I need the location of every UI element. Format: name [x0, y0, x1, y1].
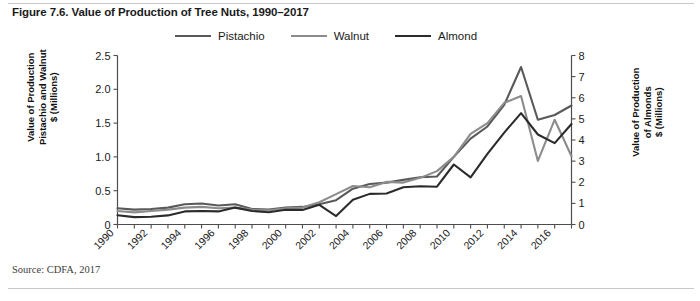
x-axis-tick-label: 1992 [125, 226, 150, 251]
x-axis-tick-label-group: 2016 [528, 226, 553, 251]
source-note: Source: CDFA, 2017 [12, 264, 100, 275]
figure-container: Figure 7.6. Value of Production of Tree … [0, 0, 700, 301]
x-axis-tick-label-group: 1990 [91, 226, 116, 251]
y-axis-left-tick-label: 2.5 [95, 50, 110, 62]
x-axis-tick-label-group: 2008 [394, 226, 419, 251]
x-axis-tick-label-group: 2010 [427, 226, 452, 251]
y-axis-left-tick-label: 2.0 [95, 83, 110, 95]
y-axis-right-tick-label: 0 [579, 219, 585, 231]
x-axis-tick-label-group: 2002 [293, 226, 318, 251]
x-axis-tick-label-group: 1998 [225, 226, 250, 251]
x-axis-tick-label: 2006 [360, 226, 385, 251]
x-axis-tick-label-group: 2000 [259, 226, 284, 251]
x-axis-tick-label: 2012 [461, 226, 486, 251]
x-axis-tick-label-group: 2006 [360, 226, 385, 251]
y-axis-right-tick-label: 4 [579, 134, 585, 146]
y-axis-right-tick-label: 1 [579, 197, 585, 209]
x-axis-tick-label: 2000 [259, 226, 284, 251]
series-line-almond [118, 113, 572, 217]
series-line-pistachio [118, 67, 572, 210]
x-axis-tick-label: 2014 [494, 226, 519, 251]
y-axis-right-tick-label: 6 [579, 92, 585, 104]
chart-svg: 00.51.01.52.02.5012345678199019921994199… [0, 0, 700, 301]
y-axis-left-tick-label: 0.5 [95, 185, 110, 197]
x-axis-tick-label: 1996 [192, 226, 217, 251]
x-axis-tick-label: 2004 [326, 226, 351, 251]
x-axis-tick-label: 1998 [225, 226, 250, 251]
plot-area: 00.51.01.52.02.5012345678199019921994199… [0, 0, 700, 301]
x-axis-tick-label-group: 2012 [461, 226, 486, 251]
x-axis-tick-label: 1990 [91, 226, 116, 251]
y-axis-left-tick-label: 1.0 [95, 151, 110, 163]
x-axis-tick-label-group: 1992 [125, 226, 150, 251]
x-axis-tick-label: 2008 [394, 226, 419, 251]
y-axis-right-tick-label: 7 [579, 71, 585, 83]
x-axis-tick-label: 1994 [158, 226, 183, 251]
x-axis-tick-label-group: 2014 [494, 226, 519, 251]
x-axis-tick-label: 2010 [427, 226, 452, 251]
y-axis-right-tick-label: 3 [579, 155, 585, 167]
x-axis-tick-label-group: 2004 [326, 226, 351, 251]
y-axis-right-tick-label: 8 [579, 50, 585, 62]
x-axis-tick-label-group: 1994 [158, 226, 183, 251]
x-axis-tick-label: 2016 [528, 226, 553, 251]
x-axis-tick-label-group: 1996 [192, 226, 217, 251]
x-axis-tick-label: 2002 [293, 226, 318, 251]
y-axis-right-tick-label: 5 [579, 113, 585, 125]
y-axis-right-tick-label: 2 [579, 176, 585, 188]
y-axis-left-tick-label: 1.5 [95, 117, 110, 129]
